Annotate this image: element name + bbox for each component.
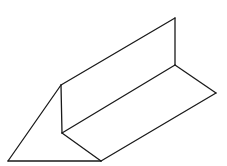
left-vertical-edge	[61, 85, 62, 133]
far-base-edge	[175, 65, 216, 93]
end-face-slant-edge	[8, 85, 61, 161]
prism-diagram	[0, 0, 227, 166]
diagram-edges	[8, 18, 216, 161]
end-face-inner-edge	[62, 133, 101, 161]
front-long-edge	[101, 93, 216, 161]
